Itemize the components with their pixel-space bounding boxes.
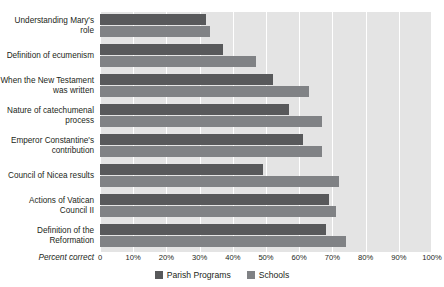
plot-area (100, 12, 432, 252)
x-tick-label: 90% (391, 253, 406, 262)
bar (100, 224, 326, 235)
category-label: When the New Testament was written (0, 76, 94, 97)
bar (100, 44, 223, 55)
bar-group (100, 222, 432, 252)
bar-group (100, 162, 432, 192)
x-tick-label: 0 (98, 253, 102, 262)
bar (100, 176, 339, 187)
bar (100, 236, 346, 247)
bar (100, 74, 273, 85)
category-label: Understanding Mary's role (0, 16, 94, 37)
chart-title (0, 0, 444, 4)
x-tick-label: 10% (126, 253, 141, 262)
bar (100, 14, 206, 25)
bar-group (100, 12, 432, 42)
bar (100, 26, 210, 37)
bar (100, 206, 336, 217)
legend-item[interactable]: Schools (247, 270, 290, 280)
x-tick-label: 100% (422, 253, 441, 262)
chart-legend: Parish ProgramsSchools (0, 270, 444, 280)
bar (100, 194, 329, 205)
category-label: Actions of Vatican Council II (0, 196, 94, 217)
x-tick-label: 80% (358, 253, 373, 262)
bar-group (100, 132, 432, 162)
x-tick-label: 30% (192, 253, 207, 262)
category-label: Definition of ecumenism (0, 51, 94, 62)
x-tick-label: 40% (225, 253, 240, 262)
legend-swatch-icon (247, 271, 255, 279)
bar (100, 86, 309, 97)
bar (100, 56, 256, 67)
legend-label: Schools (259, 270, 290, 280)
category-label: Council of Nicea results (0, 171, 94, 182)
bar-group (100, 42, 432, 72)
category-label: Emperor Constantine's contribution (0, 136, 94, 157)
x-tick-label: 50% (258, 253, 273, 262)
legend-item[interactable]: Parish Programs (155, 270, 231, 280)
x-tick-label: 20% (159, 253, 174, 262)
bar (100, 146, 322, 157)
bar-group (100, 102, 432, 132)
bar (100, 164, 263, 175)
bar (100, 104, 289, 115)
legend-label: Parish Programs (167, 270, 231, 280)
bar-chart: Understanding Mary's roleDefinition of e… (0, 0, 444, 287)
category-label: Nature of catechumenal process (0, 106, 94, 127)
category-axis-labels: Understanding Mary's roleDefinition of e… (0, 12, 94, 252)
x-axis-caption: Percent correct (0, 253, 94, 262)
x-tick-label: 60% (292, 253, 307, 262)
category-label: Definition of the Reformation (0, 226, 94, 247)
x-tick-label: 70% (325, 253, 340, 262)
bar (100, 134, 303, 145)
x-axis-ticks: 010%20%30%40%50%60%70%80%90%100% (100, 253, 432, 267)
bar-rows (100, 12, 432, 252)
bar-group (100, 192, 432, 222)
bar (100, 116, 322, 127)
legend-swatch-icon (155, 271, 163, 279)
bar-group (100, 72, 432, 102)
